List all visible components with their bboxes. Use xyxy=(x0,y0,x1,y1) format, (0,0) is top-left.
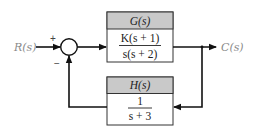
feedback-arrow-to-junction xyxy=(69,56,107,107)
minus-sign: − xyxy=(54,58,60,69)
forward-block-numerator: K(s + 1) xyxy=(121,32,160,45)
plus-sign: + xyxy=(50,33,56,44)
feedback-arrow-to-h xyxy=(174,47,202,107)
input-label: R(s) xyxy=(13,41,37,54)
feedback-block-title: H(s) xyxy=(129,79,151,92)
output-label: C(s) xyxy=(221,41,244,54)
summing-junction xyxy=(61,39,78,56)
feedback-block-numerator: 1 xyxy=(137,95,143,107)
forward-block-denominator: s(s + 2) xyxy=(123,48,158,61)
forward-block-title: G(s) xyxy=(130,15,151,28)
block-diagram: R(s) + − G(s) K(s + 1) s(s + 2) C(s) H(s… xyxy=(0,0,267,131)
feedback-block-h: H(s) 1 s + 3 xyxy=(107,77,173,125)
feedback-block-denominator: s + 3 xyxy=(129,110,152,122)
forward-block-g: G(s) K(s + 1) s(s + 2) xyxy=(107,12,173,62)
